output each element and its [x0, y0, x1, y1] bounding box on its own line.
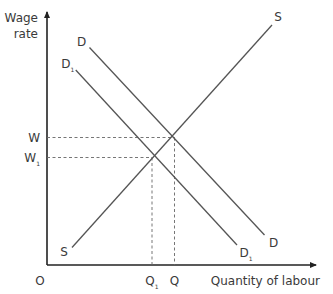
- d-label-start: D: [77, 35, 86, 49]
- original-wage-label: W: [28, 131, 40, 145]
- s-label-start: S: [60, 245, 68, 259]
- x-axis-label: Quantity of labour: [211, 274, 320, 288]
- original-quantity-label: Q: [170, 274, 179, 288]
- d1-label-end: D1: [239, 246, 252, 262]
- new-quantity-label: Q1: [145, 274, 158, 290]
- d1-label-start: D1: [61, 57, 74, 73]
- y-axis-label-line1: Wage: [5, 11, 38, 25]
- origin-label: O: [35, 274, 44, 288]
- d1-curve: [76, 70, 237, 245]
- s-label-end: S: [274, 10, 282, 24]
- d-label-end: D: [269, 236, 278, 250]
- new-wage-label: W1: [24, 151, 40, 167]
- labour-market-chart: Wage rate Quantity of labour O SSDDD1D1W…: [0, 0, 333, 294]
- d-curve: [90, 48, 265, 236]
- y-axis-label-line2: rate: [14, 27, 38, 41]
